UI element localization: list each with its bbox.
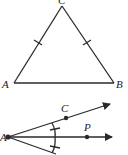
label-a-triangle: A — [1, 78, 9, 90]
geometry-figure: C A B A C P — [0, 0, 128, 155]
side-bc — [62, 6, 114, 83]
point-c — [64, 116, 68, 120]
ray-ac — [8, 104, 110, 137]
label-p-bisector: P — [83, 121, 91, 133]
isosceles-triangle: C A B — [1, 0, 123, 90]
side-ac — [14, 6, 62, 83]
label-c-triangle: C — [58, 0, 66, 6]
lower-ray — [8, 137, 56, 154]
label-b-triangle: B — [116, 78, 123, 90]
point-p — [85, 135, 89, 139]
angle-bisector-figure: A C P — [0, 102, 112, 154]
angle-arc-lower — [52, 137, 55, 153]
label-a-bisector: A — [0, 131, 7, 143]
tick-mark-bc — [83, 40, 91, 45]
label-c-bisector: C — [61, 102, 69, 114]
